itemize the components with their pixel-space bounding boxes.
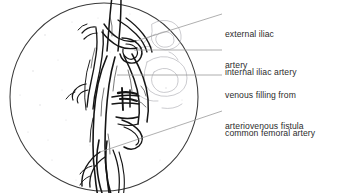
- label-line: common femoral artery: [225, 128, 315, 138]
- circle-outline: [10, 3, 198, 191]
- label-line: external iliac: [225, 29, 274, 39]
- figure-container: external iliac artery internal iliac art…: [0, 0, 337, 193]
- label-line: venous filling from: [225, 90, 304, 100]
- label-common-femoral-artery: common femoral artery: [225, 107, 315, 159]
